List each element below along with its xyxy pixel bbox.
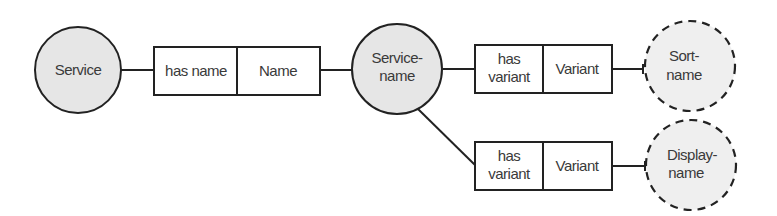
node-label-line2: name	[379, 67, 415, 84]
node-label-line2: name	[666, 66, 702, 83]
role-label: has name	[165, 62, 227, 79]
target-label: Variant	[556, 157, 600, 174]
node-label-line1: Display-	[667, 146, 718, 163]
target-label: Name	[259, 62, 297, 79]
role-label-line2: variant	[488, 68, 531, 85]
node-service-label: Service	[55, 61, 102, 78]
target-label: Variant	[556, 60, 600, 77]
orm-diagram: Service has name Name Service- name has …	[0, 0, 777, 216]
node-service[interactable]: Service	[35, 27, 121, 113]
node-sort-name[interactable]: Sort- name	[645, 21, 735, 111]
role-label-line1: has	[498, 147, 521, 164]
relation-has-variant-2[interactable]: has variant Variant	[475, 142, 612, 190]
node-service-name[interactable]: Service- name	[352, 24, 442, 114]
relation-has-variant-1[interactable]: has variant Variant	[475, 45, 612, 93]
node-label-line1: Service-	[371, 49, 423, 66]
relation-has-name[interactable]: has name Name	[154, 47, 320, 95]
node-display-name[interactable]: Display- name	[646, 120, 736, 210]
role-label-line2: variant	[488, 165, 531, 182]
edge-servicename-to-variant2	[418, 109, 475, 165]
node-label-line1: Sort-	[669, 47, 700, 64]
node-label-line2: name	[668, 164, 704, 181]
role-label-line1: has	[498, 50, 521, 67]
